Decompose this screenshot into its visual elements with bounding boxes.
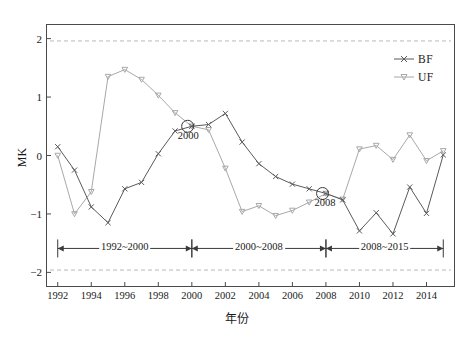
x-tick-label: 2010	[349, 290, 370, 301]
intersection-label-2000: 2000	[178, 130, 199, 141]
chart-legend: BF UF	[393, 50, 455, 86]
y-tick-label: −2	[16, 266, 42, 278]
legend-swatch-bf-icon	[393, 53, 415, 65]
legend-label-bf: BF	[418, 53, 433, 65]
x-tick-label: 2000	[181, 290, 202, 301]
period-label-3: 2008~2015	[359, 241, 411, 252]
legend-item-uf[interactable]: UF	[393, 68, 455, 86]
legend-swatch-uf-icon	[393, 71, 415, 83]
chart-figure: 2 1 0 −1 −2 1992199419961998200020022004…	[0, 0, 474, 339]
x-tick-label: 2004	[248, 290, 269, 301]
x-tick-label: 2014	[416, 290, 437, 301]
y-axis-title: MK	[15, 128, 30, 188]
x-axis-tick-labels: 1992199419961998200020022004200620082010…	[0, 290, 474, 306]
x-tick-label: 1992	[47, 290, 68, 301]
x-tick-label: 1998	[148, 290, 169, 301]
y-tick-label: 1	[16, 91, 42, 103]
period-label-2: 2000~2008	[233, 241, 285, 252]
legend-label-uf: UF	[418, 71, 434, 83]
x-tick-label: 1996	[114, 290, 135, 301]
legend-item-bf[interactable]: BF	[393, 50, 455, 68]
x-tick-label: 2002	[215, 290, 236, 301]
period-label-1: 1992~2000	[99, 241, 151, 252]
x-tick-label: 2008	[315, 290, 336, 301]
x-tick-label: 2012	[382, 290, 403, 301]
intersection-label-2008: 2008	[315, 197, 336, 208]
y-tick-label: −1	[16, 208, 42, 220]
x-axis-title: 年份	[0, 309, 474, 327]
y-tick-label: 2	[16, 33, 42, 45]
x-tick-label: 1994	[81, 290, 102, 301]
x-tick-label: 2006	[282, 290, 303, 301]
